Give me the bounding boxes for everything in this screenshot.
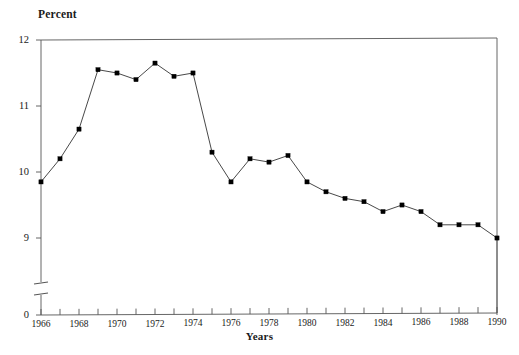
data-point-marker[interactable]: [267, 160, 271, 164]
y-tick-label-9: 9: [3, 233, 29, 244]
data-point-marker[interactable]: [248, 157, 252, 161]
data-point-marker[interactable]: [286, 153, 290, 157]
y-tick-label-12: 12: [3, 35, 29, 46]
data-point-marker[interactable]: [305, 180, 309, 184]
data-point-marker[interactable]: [134, 78, 138, 82]
data-point-marker[interactable]: [77, 127, 81, 131]
y-tick-label-0: 0: [3, 310, 29, 321]
figure-line-chart: Percent Years 12111090 19661968197019721…: [0, 0, 519, 355]
data-point-marker[interactable]: [381, 210, 385, 214]
data-point-marker[interactable]: [438, 223, 442, 227]
plot-area: [0, 0, 519, 355]
data-point-marker[interactable]: [115, 71, 119, 75]
data-point-marker[interactable]: [191, 71, 195, 75]
x-tick-label-1978: 1978: [249, 319, 289, 329]
frame-top: [41, 38, 497, 40]
data-point-marker[interactable]: [58, 157, 62, 161]
data-point-marker[interactable]: [400, 203, 404, 207]
x-tick-label-1968: 1968: [59, 320, 99, 330]
x-tick-label-1976: 1976: [211, 319, 251, 329]
y-tick-label-10: 10: [3, 167, 29, 178]
data-point-marker[interactable]: [343, 196, 347, 200]
x-tick-label-1980: 1980: [287, 319, 327, 329]
x-tick-label-1972: 1972: [135, 320, 175, 330]
data-point-marker[interactable]: [210, 150, 214, 154]
data-point-marker[interactable]: [362, 200, 366, 204]
x-tick-label-1982: 1982: [325, 319, 365, 329]
y-tick-label-11: 11: [3, 101, 29, 112]
data-point-marker[interactable]: [153, 61, 157, 65]
data-point-marker[interactable]: [324, 190, 328, 194]
data-point-marker[interactable]: [229, 180, 233, 184]
data-point-marker[interactable]: [172, 74, 176, 78]
data-point-marker[interactable]: [476, 223, 480, 227]
data-line-percent: [41, 63, 497, 238]
x-tick-label-1990: 1990: [477, 318, 517, 328]
data-point-marker[interactable]: [96, 68, 100, 72]
x-tick-label-1984: 1984: [363, 319, 403, 329]
data-point-marker[interactable]: [419, 210, 423, 214]
x-tick-label-1974: 1974: [173, 319, 213, 329]
data-point-marker[interactable]: [457, 223, 461, 227]
x-tick-label-1988: 1988: [439, 318, 479, 328]
data-point-marker[interactable]: [39, 180, 43, 184]
x-tick-label-1970: 1970: [97, 320, 137, 330]
x-tick-label-1966: 1966: [21, 320, 61, 330]
x-tick-label-1986: 1986: [401, 318, 441, 328]
axis-break-mark-lower: [34, 293, 48, 295]
data-point-marker[interactable]: [495, 236, 499, 240]
axis-break-mark-upper: [34, 282, 48, 284]
